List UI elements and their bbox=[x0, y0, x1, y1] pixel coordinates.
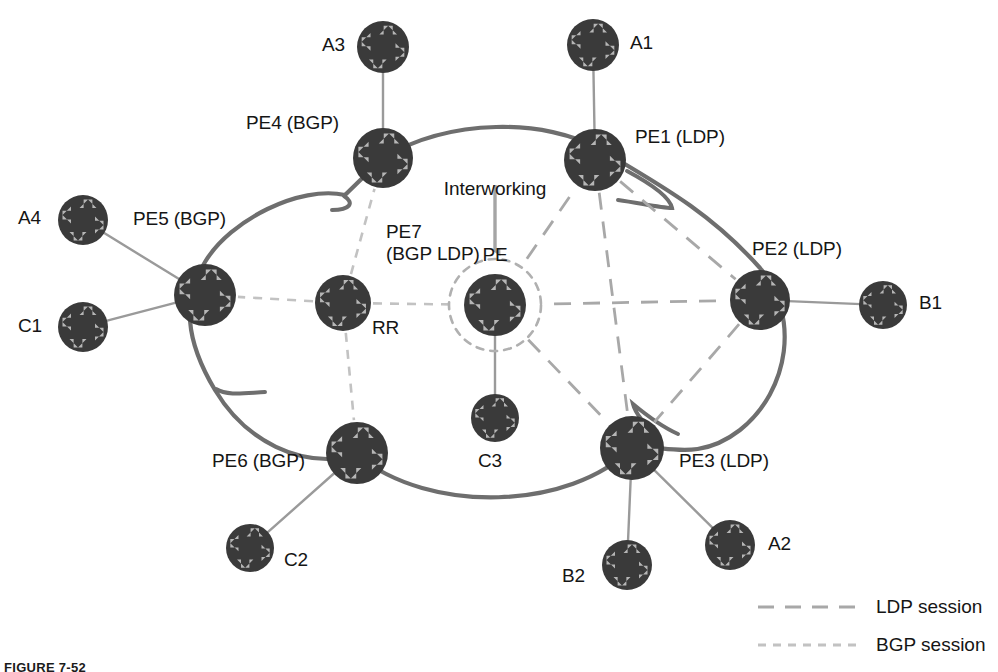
router-node-pe5[interactable] bbox=[174, 264, 236, 326]
access-link-pe3-b2 bbox=[628, 478, 631, 542]
node-label-c2-line1: C2 bbox=[284, 549, 308, 571]
node-label-pe1-line1: PE1 (LDP) bbox=[635, 126, 725, 148]
bgp-session-rr-pe4 bbox=[351, 189, 375, 274]
node-label-a1: A1 bbox=[630, 32, 653, 54]
ldp-session-pe2-pe3 bbox=[654, 324, 739, 422]
node-label-pe3: PE3 (LDP) bbox=[679, 450, 769, 472]
cloud-notch-bottom-left bbox=[216, 389, 265, 394]
diagram-canvas: A3A1PE4 (BGP)PE1 (LDP)A4PE5 (BGP)PE2 (LD… bbox=[0, 0, 998, 672]
node-label-pe4: PE4 (BGP) bbox=[246, 112, 339, 134]
node-label-rr: RR bbox=[372, 317, 399, 339]
node-label-pe5-line1: PE5 (BGP) bbox=[133, 208, 226, 230]
access-link-pe2-b1 bbox=[788, 301, 861, 304]
router-icon-disc-c1 bbox=[58, 302, 108, 352]
router-icon-disc-b2 bbox=[602, 540, 652, 590]
router-icon-disc-a2 bbox=[705, 520, 755, 570]
bgp-session-rr-pe6 bbox=[346, 333, 354, 420]
router-node-rr[interactable] bbox=[315, 275, 371, 331]
node-label-c1: C1 bbox=[18, 315, 42, 337]
router-icon-disc-pe5 bbox=[174, 264, 236, 326]
node-label-pe2: PE2 (LDP) bbox=[752, 238, 842, 260]
legend-label-ldp-session: LDP session bbox=[876, 596, 982, 618]
router-node-c3[interactable] bbox=[471, 394, 519, 442]
node-label-c3-line1: C3 bbox=[478, 450, 502, 472]
router-node-pe2[interactable] bbox=[730, 270, 790, 330]
router-node-c1[interactable] bbox=[58, 302, 108, 352]
node-label-b2-line1: B2 bbox=[562, 565, 585, 587]
node-label-a1-line1: A1 bbox=[630, 32, 653, 54]
access-link-pe3-a2 bbox=[653, 469, 713, 529]
router-icon-disc-c2 bbox=[226, 524, 274, 572]
node-label-pe2-line1: PE2 (LDP) bbox=[752, 238, 842, 260]
figure-caption: FIGURE 7-52 bbox=[4, 660, 86, 672]
node-label-pe3-line1: PE3 (LDP) bbox=[679, 450, 769, 472]
router-icon-disc-a4 bbox=[58, 195, 108, 245]
access-link-a4-pe5 bbox=[103, 232, 181, 280]
node-label-pe4-line1: PE4 (BGP) bbox=[246, 112, 339, 134]
node-label-c1-line1: C1 bbox=[18, 315, 42, 337]
router-icon-disc-a1 bbox=[567, 19, 619, 71]
node-label-a2-line1: A2 bbox=[768, 533, 791, 555]
interworking-pe-annotation: Interworking PE bbox=[428, 134, 562, 310]
router-icon-disc-pe1 bbox=[564, 129, 626, 191]
router-node-a3[interactable] bbox=[357, 21, 409, 73]
ldp-session-pe2-pe7 bbox=[540, 301, 716, 304]
router-node-pe4[interactable] bbox=[353, 128, 413, 188]
node-label-b2: B2 bbox=[562, 565, 585, 587]
router-icon-disc-pe2 bbox=[730, 270, 790, 330]
node-label-a2: A2 bbox=[768, 533, 791, 555]
node-label-pe1: PE1 (LDP) bbox=[635, 126, 725, 148]
node-label-c2: C2 bbox=[284, 549, 308, 571]
node-label-b1: B1 bbox=[919, 292, 942, 314]
node-label-a4: A4 bbox=[18, 207, 41, 229]
node-label-a3-line1: A3 bbox=[322, 34, 345, 56]
router-icon-disc-c3 bbox=[471, 394, 519, 442]
router-node-pe6[interactable] bbox=[326, 422, 388, 484]
node-label-a4-line1: A4 bbox=[18, 207, 41, 229]
cloud-notch-top-left bbox=[332, 196, 350, 210]
legend bbox=[758, 607, 862, 645]
network-topology-svg bbox=[0, 0, 998, 672]
ldp-session-pe3-pe7 bbox=[526, 337, 600, 414]
router-icon-disc-a3 bbox=[357, 21, 409, 73]
node-label-pe5: PE5 (BGP) bbox=[133, 208, 226, 230]
router-icon-disc-pe3 bbox=[600, 416, 664, 480]
access-link-pe6-c2 bbox=[266, 472, 335, 533]
node-label-pe6-line1: PE6 (BGP) bbox=[212, 450, 305, 472]
access-link-a1-pe1 bbox=[593, 69, 594, 131]
interworking-pe-annotation-line2: PE bbox=[428, 244, 562, 266]
router-node-a4[interactable] bbox=[58, 195, 108, 245]
bgp-session-rr-pe5 bbox=[238, 297, 313, 301]
router-icon-disc-rr bbox=[315, 275, 371, 331]
router-node-b1[interactable] bbox=[859, 281, 907, 329]
node-label-c3: C3 bbox=[478, 450, 502, 472]
interworking-pe-annotation-line1: Interworking bbox=[428, 178, 562, 200]
legend-label-bgp-session: BGP session bbox=[876, 634, 985, 656]
router-node-c2[interactable] bbox=[226, 524, 274, 572]
router-node-a1[interactable] bbox=[567, 19, 619, 71]
node-label-b1-line1: B1 bbox=[919, 292, 942, 314]
router-node-a2[interactable] bbox=[705, 520, 755, 570]
router-node-pe1[interactable] bbox=[564, 129, 626, 191]
router-icon-disc-b1 bbox=[859, 281, 907, 329]
node-label-a3: A3 bbox=[322, 34, 345, 56]
node-label-rr-line1: RR bbox=[372, 317, 399, 339]
access-link-c1-pe5 bbox=[105, 302, 177, 321]
router-icon-disc-pe6 bbox=[326, 422, 388, 484]
node-label-pe6: PE6 (BGP) bbox=[212, 450, 305, 472]
router-node-b2[interactable] bbox=[602, 540, 652, 590]
router-icon-disc-pe4 bbox=[353, 128, 413, 188]
router-node-pe3[interactable] bbox=[600, 416, 664, 480]
